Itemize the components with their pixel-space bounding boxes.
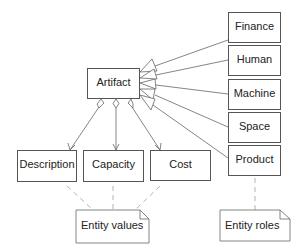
- capacity-label: Capacity: [84, 158, 143, 170]
- space-class-box[interactable]: Space: [228, 112, 281, 143]
- product-label: Product: [229, 153, 280, 165]
- space-label: Space: [229, 120, 280, 132]
- description-label: Description: [18, 158, 76, 170]
- description-class-box[interactable]: Description: [17, 150, 77, 182]
- entity-roles-note[interactable]: Entity roles: [220, 210, 290, 241]
- generalization-triangle-icons: [140, 59, 157, 110]
- product-class-box[interactable]: Product: [228, 145, 281, 176]
- cost-class-box[interactable]: Cost: [150, 150, 211, 181]
- cost-label: Cost: [151, 158, 210, 170]
- artifact-label: Artifact: [88, 76, 139, 88]
- entity-roles-label: Entity roles: [225, 219, 279, 231]
- finance-class-box[interactable]: Finance: [228, 12, 281, 43]
- entity-values-label: Entity values: [81, 219, 143, 231]
- artifact-class-box[interactable]: Artifact: [87, 68, 140, 99]
- entity-values-note[interactable]: Entity values: [76, 210, 149, 243]
- machine-class-box[interactable]: Machine: [228, 79, 281, 110]
- machine-label: Machine: [229, 87, 280, 99]
- note-connectors: [67, 178, 255, 210]
- aggregation-diamond-icons: [97, 99, 133, 108]
- aggregation-lines: [70, 107, 160, 150]
- generalization-lines: [153, 40, 228, 158]
- capacity-class-box[interactable]: Capacity: [83, 150, 144, 182]
- finance-label: Finance: [229, 20, 280, 32]
- human-class-box[interactable]: Human: [228, 45, 281, 76]
- human-label: Human: [229, 53, 280, 65]
- arrowhead-icons: [68, 143, 161, 150]
